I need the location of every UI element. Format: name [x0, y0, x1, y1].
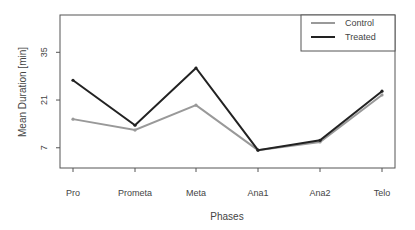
x-tick-label: Pro	[66, 188, 80, 198]
y-axis-label: Mean Duration [min]	[17, 47, 28, 137]
y-axis: 72135	[39, 47, 60, 150]
data-point	[318, 139, 321, 142]
x-tick-label: Ana1	[247, 188, 268, 198]
x-axis-label: Phases	[210, 211, 243, 222]
series-line-control	[73, 95, 382, 150]
x-tick-label: Telo	[374, 188, 391, 198]
line-chart: 72135 ProPrometaMetaAna1Ana2Telo Phases …	[0, 0, 415, 230]
data-point	[256, 149, 259, 152]
data-point	[133, 124, 136, 127]
legend: Control Treated	[301, 15, 395, 51]
data-point	[380, 93, 383, 96]
x-tick-label: Ana2	[309, 188, 330, 198]
series-line-treated	[73, 68, 382, 150]
x-tick-label: Meta	[186, 188, 206, 198]
data-point	[71, 79, 74, 82]
series-lines	[71, 66, 383, 151]
legend-label-control: Control	[345, 18, 374, 28]
y-tick-label: 21	[39, 95, 49, 105]
data-point	[71, 118, 74, 121]
x-axis: ProPrometaMetaAna1Ana2Telo	[66, 168, 390, 198]
legend-label-treated: Treated	[345, 32, 376, 42]
data-point	[194, 66, 197, 69]
data-point	[194, 104, 197, 107]
data-point	[133, 128, 136, 131]
data-point	[380, 90, 383, 93]
y-tick-label: 35	[39, 47, 49, 57]
y-tick-label: 7	[39, 145, 49, 150]
x-tick-label: Prometa	[118, 188, 152, 198]
